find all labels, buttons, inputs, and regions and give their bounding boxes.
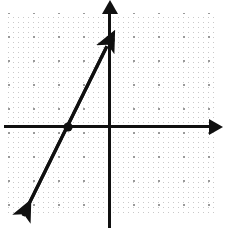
coordinate-plane: y = 2x + 3.5 Coordinate plane with dotte… <box>0 0 227 228</box>
plotted-line-group <box>0 0 227 228</box>
x-intercept-marker <box>63 122 72 131</box>
line-body <box>23 46 107 215</box>
y-intercept-marker <box>105 35 114 44</box>
